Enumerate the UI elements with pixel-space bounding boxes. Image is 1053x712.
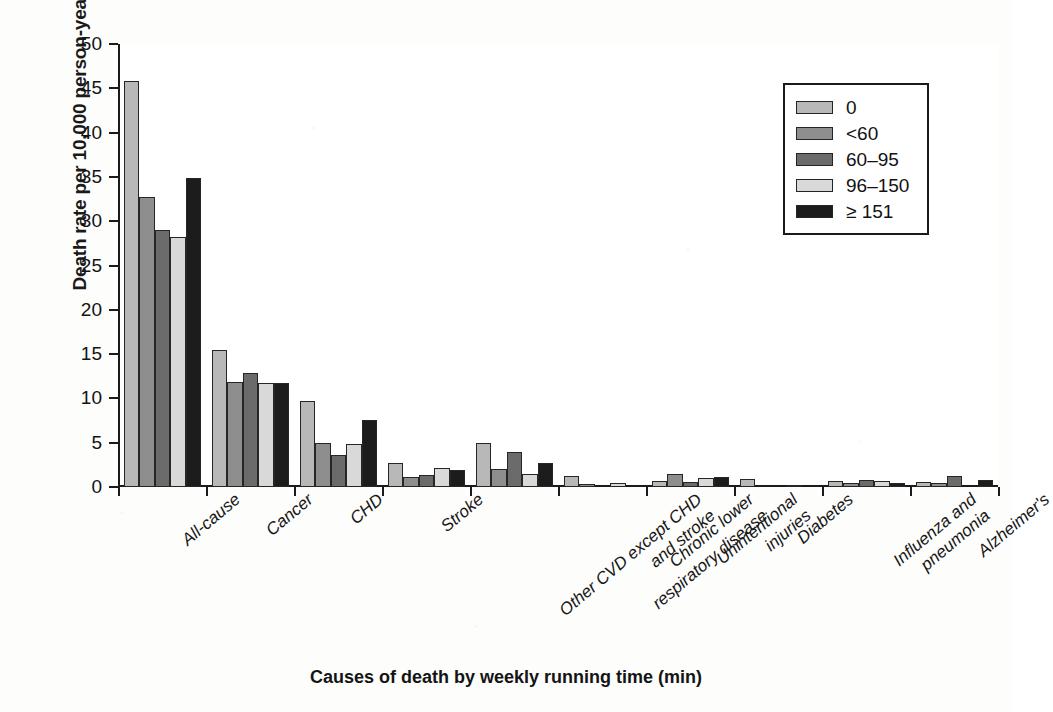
bar [843, 483, 858, 487]
bar [212, 350, 227, 487]
legend-item: 60–95 [796, 146, 909, 172]
bar [579, 484, 594, 487]
legend-label: <60 [846, 124, 878, 143]
bar-group [300, 44, 377, 487]
bar-group [564, 44, 641, 487]
bar [258, 383, 273, 487]
bar [476, 443, 491, 487]
bar [124, 81, 139, 487]
bar [978, 480, 993, 487]
y-axis-tick-label: 30 [58, 211, 102, 230]
x-axis-category-label-line: Stroke [436, 489, 487, 537]
legend-label: 60–95 [846, 150, 899, 169]
bar [564, 476, 579, 487]
bar [388, 463, 403, 487]
bar [362, 420, 377, 487]
y-axis-tick [109, 265, 118, 267]
x-axis-category-label-line: Cancer [261, 489, 316, 540]
bar [403, 477, 418, 487]
bar [859, 480, 874, 487]
y-axis-tick [109, 87, 118, 89]
legend-label: 0 [846, 98, 857, 117]
bar [331, 455, 346, 487]
y-axis-tick [109, 132, 118, 134]
bar [491, 469, 506, 487]
x-axis-category-label: CHD [345, 489, 387, 529]
y-axis-tick [109, 397, 118, 399]
x-axis-category-label: All-cause [177, 489, 244, 550]
bar [931, 483, 946, 487]
bar [683, 482, 698, 487]
bar [434, 468, 449, 487]
y-axis-tick-label: 35 [58, 167, 102, 186]
legend-swatch [796, 101, 833, 114]
bar [538, 463, 553, 487]
x-axis-category-label: Stroke [436, 489, 487, 537]
bar [610, 483, 625, 487]
bar [139, 197, 154, 487]
bar [315, 443, 330, 487]
bar-group [652, 44, 729, 487]
bar [740, 479, 755, 487]
x-axis-category-label: Cancer [261, 489, 316, 540]
bar [916, 482, 931, 487]
y-axis-tick [109, 43, 118, 45]
legend-label: 96–150 [846, 176, 909, 195]
y-axis-tick-label: 20 [58, 300, 102, 319]
y-axis-tick [109, 486, 118, 488]
y-axis-tick-label: 50 [58, 34, 102, 53]
legend-item: ≥ 151 [796, 198, 909, 224]
bar [786, 485, 801, 487]
bar [155, 230, 170, 487]
y-axis-tick-label: 15 [58, 344, 102, 363]
bar [186, 178, 201, 487]
legend-label: ≥ 151 [846, 202, 893, 221]
legend-swatch [796, 179, 833, 192]
x-axis-tick [998, 487, 1000, 496]
y-axis-tick [109, 176, 118, 178]
legend-item: <60 [796, 120, 909, 146]
bar-group [124, 44, 201, 487]
bar [419, 475, 434, 487]
bar [450, 470, 465, 487]
x-axis-category-labels: All-causeCancerCHDStrokeOther CVD except… [118, 489, 998, 649]
bar [243, 373, 258, 487]
y-axis-tick-labels: 05101520253035404550 [58, 44, 102, 487]
y-axis-tick-label: 0 [58, 477, 102, 496]
legend-swatch [796, 153, 833, 166]
y-axis-tick-label: 25 [58, 256, 102, 275]
y-axis-tick-label: 5 [58, 433, 102, 452]
bar [346, 444, 361, 487]
y-axis-tick-label: 45 [58, 78, 102, 97]
y-axis-tick [109, 353, 118, 355]
bar [274, 383, 289, 487]
bar [947, 476, 962, 487]
bar [227, 382, 242, 487]
legend-item: 96–150 [796, 172, 909, 198]
bar [507, 452, 522, 487]
x-axis-category-label-line: All-cause [177, 489, 244, 550]
bar [170, 237, 185, 487]
bar [300, 401, 315, 487]
bar [698, 478, 713, 487]
bar [874, 481, 889, 487]
legend: 0<6060–9596–150≥ 151 [783, 83, 929, 235]
legend-swatch [796, 127, 833, 140]
bar [714, 477, 729, 487]
bar-group [212, 44, 289, 487]
x-axis-category-label: Influenza andpneumonia [888, 489, 993, 587]
y-axis-tick [109, 220, 118, 222]
bar [828, 481, 843, 487]
legend-swatch [796, 205, 833, 218]
bar [652, 481, 667, 487]
bar [667, 474, 682, 487]
y-axis-tick [109, 309, 118, 311]
x-axis-title: Causes of death by weekly running time (… [0, 667, 1012, 688]
x-axis-category-label-line: CHD [345, 489, 387, 529]
bar [890, 483, 905, 487]
y-axis-tick-label: 40 [58, 123, 102, 142]
bar-group [388, 44, 465, 487]
legend-item: 0 [796, 94, 909, 120]
bar [522, 474, 537, 487]
